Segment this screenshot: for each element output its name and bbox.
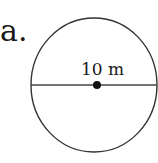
- circle-diagram: 10 m: [0, 0, 158, 163]
- diameter-label: 10 m: [81, 59, 124, 79]
- center-point: [93, 81, 101, 89]
